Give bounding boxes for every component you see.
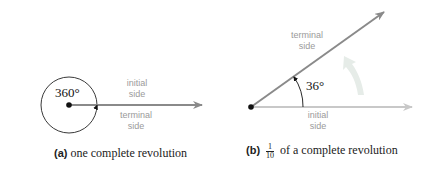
terminal-side-label: terminal side [284, 30, 330, 52]
caption-text: of a complete revolution [280, 143, 398, 157]
label-line: initial [117, 78, 157, 89]
angle-label-360: 360° [55, 85, 80, 101]
label-line: initial [298, 110, 338, 121]
label-line: side [113, 121, 159, 132]
initial-side-label: initial side [117, 78, 157, 100]
caption-a: (a) one complete revolution [54, 146, 187, 161]
vertex-dot [66, 102, 72, 108]
label-line: side [284, 41, 330, 52]
vertex-dot [248, 104, 254, 110]
angle-arc [294, 77, 303, 107]
initial-side-label: initial side [298, 110, 338, 132]
fraction: 1 10 [266, 143, 274, 160]
rotation-direction-arrow-icon [343, 56, 364, 95]
label-line: terminal [113, 110, 159, 121]
terminal-side-label: terminal side [113, 110, 159, 132]
fraction-denominator: 10 [266, 152, 274, 160]
label-line: side [298, 121, 338, 132]
caption-b: (b) 1 10 of a complete revolution [246, 143, 398, 160]
caption-text: one complete revolution [70, 146, 187, 160]
label-line: side [117, 89, 157, 100]
label-line: terminal [284, 30, 330, 41]
panel-b-tenth-revolution [248, 12, 412, 110]
caption-tag: (a) [54, 147, 67, 159]
angle-label-36: 36° [306, 78, 324, 94]
caption-tag: (b) [246, 144, 260, 156]
